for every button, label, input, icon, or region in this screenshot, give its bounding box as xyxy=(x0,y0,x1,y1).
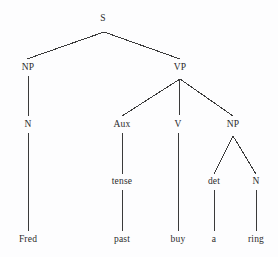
terminal-node-past: past xyxy=(114,235,130,245)
nonterminal-node-np1: NP xyxy=(22,63,35,73)
nonterminal-node-tense: tense xyxy=(112,177,133,187)
tree-edge-np2-to-n2 xyxy=(233,136,256,174)
nonterminal-node-n2: N xyxy=(252,177,259,187)
terminal-node-a: a xyxy=(212,235,216,245)
tree-edge-s-to-np1 xyxy=(27,32,104,59)
nonterminal-node-np2: NP xyxy=(227,120,240,130)
tree-edge-s-to-vp xyxy=(104,32,180,59)
nonterminal-node-n1: N xyxy=(24,120,31,130)
nonterminal-node-vp: VP xyxy=(174,63,187,73)
nonterminal-node-aux: Aux xyxy=(114,120,131,130)
syntax-tree-diagram: SNPVPNAuxVNPtensedetNFredpastbuyaring xyxy=(0,0,278,257)
tree-edge-np2-to-det xyxy=(214,136,233,174)
terminal-node-buy: buy xyxy=(171,235,186,245)
nonterminal-node-s: S xyxy=(100,14,105,24)
terminal-node-fred: Fred xyxy=(19,235,37,245)
tree-edge-vp-to-aux xyxy=(122,79,180,116)
nonterminal-node-det: det xyxy=(208,177,220,187)
tree-edge-vp-to-v xyxy=(179,79,180,116)
tree-edge-vp-to-np2 xyxy=(180,79,233,116)
terminal-node-ring: ring xyxy=(248,235,264,245)
nonterminal-node-v: V xyxy=(174,120,181,130)
